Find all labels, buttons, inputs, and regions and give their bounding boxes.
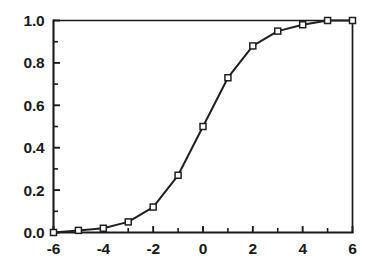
data-point-xneg2 bbox=[150, 204, 156, 210]
chart-background bbox=[0, 0, 373, 267]
x-tick-label-6: 6 bbox=[348, 240, 357, 257]
data-point-x4 bbox=[300, 22, 306, 28]
x-tick-label-neg4: -4 bbox=[97, 240, 111, 257]
chart-figure: -6-4-20246 0.00.20.40.60.81.0 bbox=[0, 0, 373, 267]
data-point-x2 bbox=[250, 43, 256, 49]
x-tick-label-2: 2 bbox=[249, 240, 257, 257]
data-point-x1 bbox=[225, 75, 231, 81]
data-point-xneg5 bbox=[75, 227, 81, 233]
y-tick-label-0.0: 0.0 bbox=[24, 224, 45, 241]
x-tick-label-neg6: -6 bbox=[47, 240, 61, 257]
x-tick-label-neg2: -2 bbox=[146, 240, 159, 257]
data-point-x5 bbox=[325, 18, 331, 24]
y-tick-label-1.0: 1.0 bbox=[24, 12, 45, 29]
data-point-xneg1 bbox=[175, 172, 181, 178]
y-tick-label-0.8: 0.8 bbox=[24, 54, 46, 71]
sigmoid-line-chart: -6-4-20246 0.00.20.40.60.81.0 bbox=[0, 0, 373, 267]
data-point-x0 bbox=[200, 124, 206, 130]
y-tick-label-0.2: 0.2 bbox=[24, 182, 45, 199]
data-point-xneg4 bbox=[100, 225, 106, 231]
y-tick-label-0.4: 0.4 bbox=[24, 139, 46, 156]
data-point-xneg3 bbox=[125, 219, 131, 225]
data-point-x3 bbox=[275, 28, 281, 34]
data-point-xneg6 bbox=[51, 230, 57, 236]
x-tick-label-4: 4 bbox=[298, 240, 307, 257]
x-tick-label-0: 0 bbox=[199, 240, 207, 257]
data-point-x6 bbox=[350, 18, 356, 24]
y-tick-label-0.6: 0.6 bbox=[24, 97, 46, 114]
